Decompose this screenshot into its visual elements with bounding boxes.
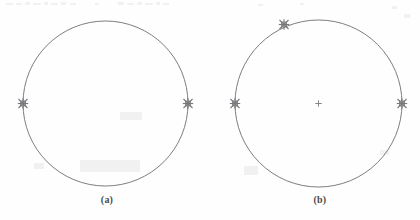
marker-right xyxy=(183,98,193,108)
scan-artifact xyxy=(300,3,304,5)
scan-artifact xyxy=(120,112,142,120)
scan-artifact xyxy=(25,2,30,5)
figure-canvas xyxy=(0,0,420,220)
scan-artifact xyxy=(163,3,169,5)
marker-upper-left xyxy=(279,19,289,29)
scan-artifact xyxy=(51,3,58,5)
scan-artifact xyxy=(33,3,41,5)
marker-right xyxy=(397,98,407,108)
panel-b-caption: (b) xyxy=(300,194,340,205)
scan-artifact-layer xyxy=(6,2,410,175)
marker-left xyxy=(230,98,240,108)
scan-artifact xyxy=(34,163,44,169)
panel-b-diagram xyxy=(230,19,407,187)
scan-artifact xyxy=(404,14,410,18)
scan-artifact xyxy=(118,2,124,5)
scan-artifact xyxy=(244,166,258,175)
marker-left xyxy=(18,98,28,108)
scan-artifact xyxy=(6,3,13,5)
scan-artifact xyxy=(16,3,22,5)
panel-b-markers xyxy=(230,19,407,108)
scan-artifact xyxy=(44,2,48,5)
scan-artifact xyxy=(61,2,66,5)
scan-artifact xyxy=(80,160,140,172)
scan-artifact xyxy=(137,2,142,5)
panel-a-markers xyxy=(18,98,193,108)
figure-container: (a) (b) xyxy=(0,0,420,220)
scan-artifact xyxy=(95,3,99,5)
scan-artifact xyxy=(258,4,263,6)
scan-artifact xyxy=(70,3,76,5)
center-cross-marker-b xyxy=(315,100,321,106)
scan-artifact xyxy=(145,3,153,5)
panel-a-caption: (a) xyxy=(87,194,127,205)
scan-artifact xyxy=(156,2,160,5)
scan-artifact xyxy=(127,3,134,5)
scan-artifact xyxy=(392,6,397,9)
